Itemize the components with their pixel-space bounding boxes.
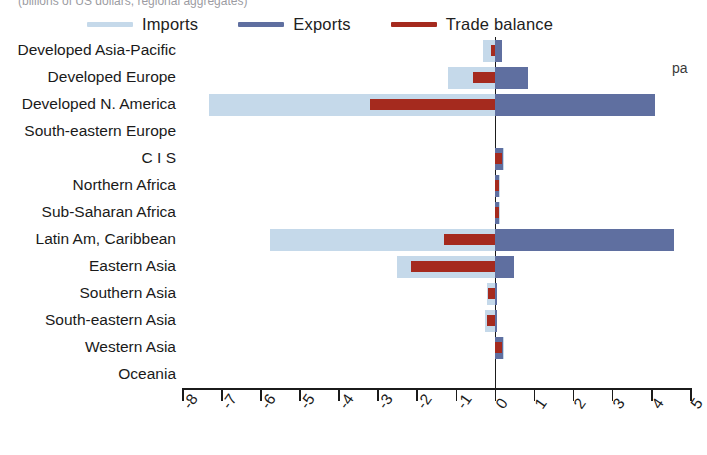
- x-tick-label: 2: [570, 395, 590, 412]
- category-label: Developed Asia-Pacific: [0, 41, 176, 59]
- category-label: South-eastern Europe: [0, 122, 176, 140]
- legend-item-exports[interactable]: Exports: [238, 15, 350, 34]
- x-tick-label: 4: [648, 395, 668, 412]
- chart-row: [182, 226, 690, 253]
- chart-legend: ImportsExportsTrade balance: [0, 13, 640, 35]
- chart-row: [182, 118, 690, 145]
- category-label: Eastern Asia: [0, 257, 176, 275]
- chart-row: [182, 91, 690, 118]
- category-axis-labels: Developed Asia-PacificDeveloped EuropeDe…: [0, 37, 176, 388]
- plot-area: [182, 37, 690, 388]
- bar-trade-balance: [411, 261, 495, 272]
- bar-exports: [495, 67, 528, 89]
- legend-swatch-imports: [87, 22, 133, 27]
- chart-row: [182, 37, 690, 64]
- category-label: South-eastern Asia: [0, 311, 176, 329]
- chart-row: [182, 172, 690, 199]
- chart-row: [182, 199, 690, 226]
- bar-exports: [495, 40, 503, 62]
- bar-exports: [495, 256, 515, 278]
- bar-trade-balance: [473, 72, 494, 83]
- bar-exports: [495, 283, 497, 305]
- category-label: Northern Africa: [0, 176, 176, 194]
- chart-row: [182, 280, 690, 307]
- side-note: pa: [672, 60, 688, 76]
- legend-label-imports: Imports: [142, 15, 198, 34]
- bar-trade-balance: [487, 315, 495, 326]
- legend-item-imports[interactable]: Imports: [87, 15, 198, 34]
- chart-row: [182, 253, 690, 280]
- chart-row: [182, 64, 690, 91]
- bar-trade-balance: [495, 180, 499, 191]
- bar-trade-balance: [370, 99, 495, 110]
- category-label: Oceania: [0, 365, 176, 383]
- category-label: Southern Asia: [0, 284, 176, 302]
- x-tick-label: 5: [687, 395, 707, 412]
- bar-exports: [495, 229, 675, 251]
- category-label: Latin Am, Caribbean: [0, 230, 176, 248]
- x-tick-label: 3: [609, 395, 629, 412]
- caption-text: (billions of US dollars, regional aggreg…: [18, 0, 247, 8]
- chart-row: [182, 361, 690, 388]
- bar-trade-balance: [488, 288, 495, 299]
- clipped-caption: (billions of US dollars, regional aggreg…: [0, 0, 697, 11]
- category-label: Sub-Saharan Africa: [0, 203, 176, 221]
- bar-trade-balance: [495, 207, 499, 218]
- chart-row: [182, 307, 690, 334]
- category-label: C I S: [0, 149, 176, 167]
- legend-swatch-exports: [238, 22, 284, 27]
- chart-row: [182, 334, 690, 361]
- category-label: Developed N. America: [0, 95, 176, 113]
- bar-exports: [495, 310, 497, 332]
- x-tick-label: 1: [531, 395, 551, 412]
- bar-trade-balance: [491, 45, 495, 56]
- bar-trade-balance: [444, 234, 495, 245]
- category-label: Western Asia: [0, 338, 176, 356]
- bar-exports: [495, 94, 655, 116]
- legend-label-trade-balance: Trade balance: [446, 15, 553, 34]
- legend-swatch-trade-balance: [391, 22, 437, 27]
- legend-label-exports: Exports: [293, 15, 350, 34]
- x-axis-line: [182, 388, 690, 390]
- bar-trade-balance: [495, 342, 502, 353]
- bar-trade-balance: [495, 153, 502, 164]
- x-tick-label: 0: [492, 395, 512, 412]
- legend-item-trade-balance[interactable]: Trade balance: [391, 15, 553, 34]
- category-label: Developed Europe: [0, 68, 176, 86]
- chart-row: [182, 145, 690, 172]
